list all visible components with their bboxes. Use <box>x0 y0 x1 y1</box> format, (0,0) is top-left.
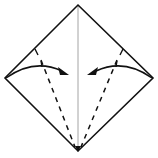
origami-diagram: Kite base fold <box>0 0 158 158</box>
background <box>0 0 158 158</box>
